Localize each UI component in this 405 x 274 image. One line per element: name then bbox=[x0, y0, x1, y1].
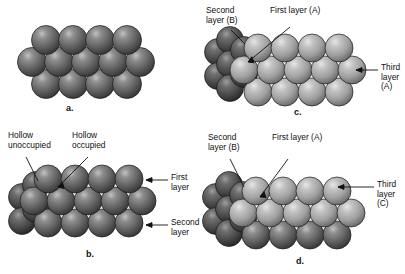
panel-b-label-first-layer: First layer bbox=[171, 173, 189, 192]
panel-c-label-second-layer-b: Second layer (B) bbox=[206, 6, 238, 25]
panel-d-letter: d. bbox=[296, 256, 304, 266]
panel-a-letter: a. bbox=[66, 103, 74, 113]
panel-a: a. bbox=[0, 0, 200, 125]
panel-d-label-first-layer-a: First layer (A) bbox=[272, 133, 322, 143]
panel-c-label-first-layer-a: First layer (A) bbox=[270, 6, 320, 16]
panel-b-label-hollow-occupied: Hollow occupied bbox=[72, 131, 106, 150]
panel-d: Second layer (B) First layer (A) Third l… bbox=[200, 125, 405, 274]
close-packing-figure: a. bbox=[0, 0, 405, 274]
panel-b-letter: b. bbox=[86, 249, 94, 259]
panel-c-letter: c. bbox=[294, 107, 302, 117]
panel-c-label-third-layer-a: Third layer (A) bbox=[381, 63, 405, 92]
panel-d-label-second-layer-b: Second layer (B) bbox=[208, 133, 240, 152]
panel-b-label-second-layer: Second layer bbox=[171, 218, 199, 237]
panel-b: Hollow unoccupied Hollow occupied First … bbox=[0, 125, 200, 274]
panel-b-label-hollow-unoccupied: Hollow unoccupied bbox=[8, 131, 51, 150]
panel-a-spheres bbox=[0, 0, 200, 125]
panel-d-label-third-layer-c: Third layer (C) bbox=[377, 180, 405, 209]
